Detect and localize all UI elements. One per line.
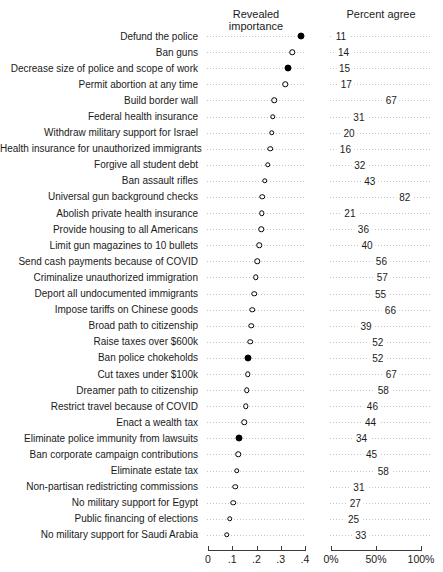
left-panel-title: Revealed importance	[205, 8, 307, 26]
importance-dot-filled	[297, 33, 304, 40]
policy-label: Raise taxes over $600k	[0, 336, 205, 347]
importance-dot-hollow	[244, 387, 250, 393]
importance-panel-cell	[205, 205, 307, 221]
percent-panel-cell: 66	[328, 302, 434, 318]
importance-dot-filled	[284, 65, 291, 72]
importance-panel-cell	[205, 269, 307, 285]
importance-dot-hollow	[265, 162, 271, 168]
importance-panel-cell	[205, 286, 307, 302]
axis-tick-label: 0%	[323, 553, 338, 565]
importance-panel-cell	[205, 398, 307, 414]
importance-panel-cell	[205, 221, 307, 237]
policy-label: Health insurance for unauthorized immigr…	[0, 143, 205, 154]
percent-panel-cell: 36	[328, 221, 434, 237]
importance-panel-cell	[205, 141, 307, 157]
chart-row: Dreamer path to citizenship58	[0, 382, 443, 398]
chart-row: No military support for Saudi Arabia33	[0, 527, 443, 543]
percent-agree-value: 36	[355, 224, 372, 235]
importance-panel-cell	[205, 334, 307, 350]
importance-panel-cell	[205, 76, 307, 92]
dotted-leader-line	[207, 519, 305, 520]
axis-tick-label: .4	[301, 553, 310, 565]
importance-panel-cell	[205, 495, 307, 511]
dotted-leader-line	[207, 197, 305, 198]
policy-label: Cut taxes under $100k	[0, 369, 205, 380]
chart-row: Enact a wealth tax44	[0, 414, 443, 430]
percent-agree-value: 20	[340, 127, 357, 138]
importance-panel-cell	[205, 125, 307, 141]
chart-row: Decrease size of police and scope of wor…	[0, 60, 443, 76]
dotted-leader-line	[330, 100, 432, 101]
chart-row: Universal gun background checks82	[0, 189, 443, 205]
importance-axis: 0.1.2.3.4	[208, 544, 305, 568]
dotted-leader-line	[330, 535, 432, 536]
importance-panel-cell	[205, 173, 307, 189]
policy-label: Universal gun background checks	[0, 191, 205, 202]
dot-plot-chart: Revealed importance Percent agree Defund…	[0, 0, 443, 572]
importance-panel-cell	[205, 237, 307, 253]
importance-dot-filled	[245, 354, 252, 361]
chart-row: Defund the police11	[0, 28, 443, 44]
chart-row: Non-partisan redistricting commissions31	[0, 479, 443, 495]
axis-tick	[257, 546, 258, 551]
percent-agree-value: 17	[338, 79, 355, 90]
percent-agree-value: 56	[373, 256, 390, 267]
percent-agree-value: 39	[358, 320, 375, 331]
importance-panel-cell	[205, 157, 307, 173]
percent-agree-value: 31	[350, 111, 367, 122]
percent-panel-cell: 20	[328, 125, 434, 141]
importance-dot-hollow	[259, 210, 265, 216]
percent-agree-value: 15	[336, 63, 353, 74]
importance-panel-cell	[205, 44, 307, 60]
importance-panel-cell	[205, 28, 307, 44]
policy-label: Federal health insurance	[0, 111, 205, 122]
policy-label: Eliminate police immunity from lawsuits	[0, 433, 205, 444]
dotted-leader-line	[330, 117, 432, 118]
dotted-leader-line	[207, 471, 305, 472]
importance-dot-hollow	[258, 226, 264, 232]
dotted-leader-line	[207, 390, 305, 391]
chart-row: Eliminate estate tax58	[0, 463, 443, 479]
percent-agree-value: 44	[362, 417, 379, 428]
chart-row: Health insurance for unauthorized immigr…	[0, 141, 443, 157]
percent-panel-cell: 46	[328, 398, 434, 414]
importance-panel-cell	[205, 350, 307, 366]
percent-agree-value: 52	[369, 336, 386, 347]
importance-dot-hollow	[236, 452, 242, 458]
percent-agree-value: 32	[351, 159, 368, 170]
policy-label: Broad path to citizenship	[0, 320, 205, 331]
axis-tick-label: .2	[252, 553, 261, 565]
importance-panel-cell	[205, 479, 307, 495]
chart-row: Limit gun magazines to 10 bullets40	[0, 237, 443, 253]
importance-dot-hollow	[267, 146, 273, 152]
percent-panel-cell: 43	[328, 173, 434, 189]
chart-row: Ban guns14	[0, 44, 443, 60]
percent-agree-value: 34	[353, 433, 370, 444]
percent-agree-value: 16	[337, 143, 354, 154]
dotted-leader-line	[207, 374, 305, 375]
importance-panel-cell	[205, 318, 307, 334]
chart-row: Build border wall67	[0, 92, 443, 108]
importance-panel-cell	[205, 302, 307, 318]
percent-panel-cell: 31	[328, 479, 434, 495]
importance-dot-hollow	[271, 98, 277, 104]
importance-panel-cell	[205, 446, 307, 462]
percent-agree-value: 14	[335, 47, 352, 58]
chart-row: Forgive all student debt32	[0, 157, 443, 173]
percent-panel-cell: 39	[328, 318, 434, 334]
importance-panel-cell	[205, 511, 307, 527]
importance-dot-hollow	[282, 82, 288, 88]
percent-panel-cell: 27	[328, 495, 434, 511]
percent-panel-cell: 45	[328, 446, 434, 462]
dotted-leader-line	[207, 422, 305, 423]
policy-label: Deport all undocumented immigrants	[0, 288, 205, 299]
dotted-leader-line	[207, 149, 305, 150]
dotted-leader-line	[207, 454, 305, 455]
percent-panel-cell: 16	[328, 141, 434, 157]
percent-panel-cell: 11	[328, 28, 434, 44]
axis-tick	[376, 546, 377, 551]
percent-panel-cell: 33	[328, 527, 434, 543]
percent-agree-value: 55	[372, 288, 389, 299]
policy-label: Dreamer path to citizenship	[0, 385, 205, 396]
chart-row: Ban corporate campaign contributions45	[0, 446, 443, 462]
